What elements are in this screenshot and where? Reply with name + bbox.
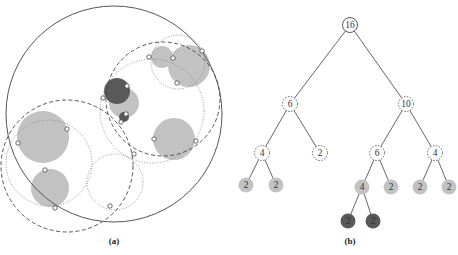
tree-node-label: 4 (433, 148, 438, 158)
tree-node-d2: 2 (366, 214, 381, 229)
tree-node-label: 2 (418, 182, 423, 192)
tangent-point-marker (171, 56, 175, 60)
tree-node-n16: 16 (343, 18, 358, 33)
tree-node-label: 2 (371, 216, 376, 226)
figure-canvas: (a) 16610426422422222 (b) (0, 0, 458, 255)
dashed-bounding-circle (1, 100, 133, 232)
tangent-point-marker (194, 139, 198, 143)
panel-a-caption: (a) (109, 236, 120, 246)
tree-node-label: 2 (447, 182, 452, 192)
tangent-point-marker (43, 168, 47, 172)
light-filled-circle (153, 118, 195, 160)
tree-node-label: 6 (375, 148, 380, 158)
tree-edge (290, 104, 320, 153)
tree-node-n4a: 4 (255, 146, 270, 161)
tree-node-label: 2 (244, 180, 249, 190)
light-filled-circle (17, 111, 69, 163)
tangent-point-marker (124, 112, 128, 116)
tree-node-label: 6 (288, 99, 293, 109)
tree-node-d1: 2 (341, 214, 356, 229)
tree-edge (350, 25, 406, 104)
tree-node-label: 2 (318, 148, 323, 158)
tangent-point-marker (147, 55, 151, 59)
tangent-point-marker (119, 120, 123, 124)
dotted-bounding-circle (87, 154, 143, 210)
tangent-point-marker (108, 204, 112, 208)
tree-node-label: 4 (360, 182, 365, 192)
tree-node-l1: 2 (239, 178, 254, 193)
tree-node-n4b: 4 (428, 146, 443, 161)
tree-edge (406, 104, 435, 153)
tangent-point-marker (152, 137, 156, 141)
panel-a-circle-packing (1, 6, 222, 232)
tree-node-n6b: 6 (370, 146, 385, 161)
tree-node-l3: 2 (384, 180, 399, 195)
tree-node-l4: 2 (413, 180, 428, 195)
dark-filled-circle (104, 78, 130, 104)
tree-node-n6a: 6 (283, 97, 298, 112)
tangent-point-marker (125, 84, 129, 88)
tree-node-label: 10 (401, 99, 411, 109)
tangent-point-marker (16, 141, 20, 145)
tangent-point-marker (53, 206, 57, 210)
tree-node-l2: 2 (269, 178, 284, 193)
tangent-point-marker (101, 96, 105, 100)
tangent-point-marker (65, 127, 69, 131)
tree-node-n4c: 4 (355, 180, 370, 195)
tangent-point-marker (175, 81, 179, 85)
tree-node-n10: 10 (399, 97, 414, 112)
panel-b-caption: (b) (345, 236, 356, 246)
tree-node-label: 2 (274, 180, 279, 190)
tree-node-l5: 2 (442, 180, 457, 195)
panel-b-tree: 16610426422422222 (239, 18, 457, 229)
tree-edge (377, 104, 406, 153)
tangent-point-marker (200, 49, 204, 53)
tree-node-label: 2 (389, 182, 394, 192)
tree-edge (262, 104, 290, 153)
tree-node-n2a: 2 (313, 146, 328, 161)
tree-edge (290, 25, 350, 104)
tree-node-label: 4 (260, 148, 265, 158)
tangent-point-marker (132, 152, 136, 156)
tree-node-label: 16 (345, 20, 355, 30)
tree-node-label: 2 (346, 216, 351, 226)
